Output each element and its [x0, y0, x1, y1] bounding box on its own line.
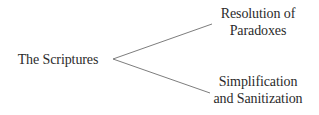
connector-line-bottom [113, 59, 210, 93]
branch-label-line1: Simplification [203, 73, 313, 90]
branch-label-line1: Resolution of [203, 5, 313, 22]
branch-node-simplification-and-sanitization: Simplification and Sanitization [203, 73, 313, 107]
branch-label-line2: and Sanitization [203, 90, 313, 107]
branch-node-resolution-of-paradoxes: Resolution of Paradoxes [203, 5, 313, 39]
branch-label-line2: Paradoxes [203, 22, 313, 39]
root-label: The Scriptures [8, 51, 108, 68]
root-node: The Scriptures [8, 51, 108, 68]
connector-line-top [113, 24, 212, 59]
